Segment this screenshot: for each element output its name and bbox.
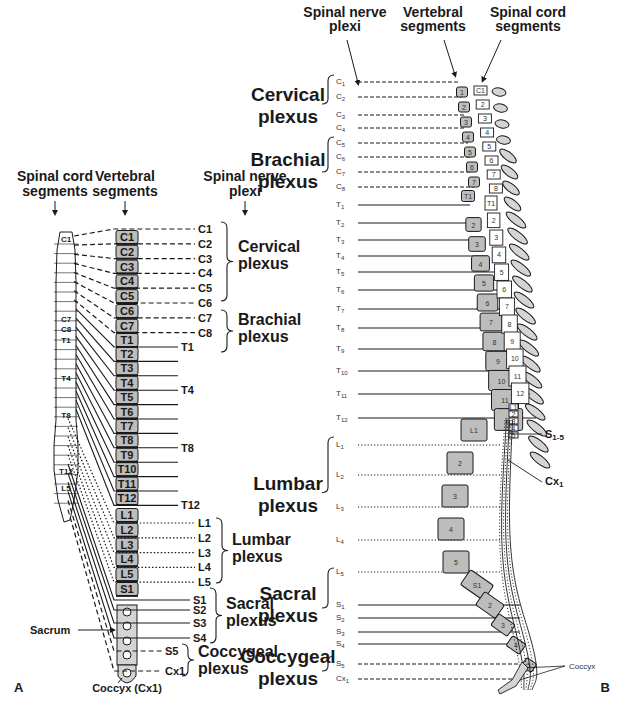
nerve-label-b: L4 [336,535,344,545]
vertebra-label: C3 [120,261,134,273]
nerve-label-b: T11 [336,389,348,399]
nerve-label-b: T6 [336,285,345,295]
nerve-label: L1 [198,517,211,529]
vertebra-label: T7 [121,420,134,432]
vertebral-body-label: 11 [501,397,508,404]
cord-segment-label: T8 [61,411,71,420]
vertebra-label: T2 [121,348,134,360]
vertebral-body-label: 3 [475,241,479,248]
cord-segment-label-b: 7 [492,171,496,178]
vertebral-body-label: 3 [453,493,457,500]
nerve-label-b: T7 [336,304,345,314]
cord-segment-label-b: 4 [485,129,489,136]
header-vertebral-segments: Vertebralsegments [92,168,158,199]
vertebra-label: C6 [120,305,134,317]
nerve-label-b: C4 [336,123,346,133]
vertebral-body-label: 6 [470,164,474,171]
nerve-label-b: C2 [336,92,346,102]
spinous-process [510,273,534,294]
cord-segment-label-b: 2 [481,101,485,108]
nerve-label: T12 [181,499,200,511]
vertebra-label: C2 [120,246,134,258]
nerve-label: C6 [198,297,212,309]
nerve-label-b: S3 [336,627,345,637]
spinous-process [498,147,519,166]
plexus-label-b-cervical: Cervicalplexus [251,84,325,127]
cord-segment-label: C7 [61,315,72,324]
nerve-label-b: L5 [336,567,344,577]
spinous-process [509,257,533,278]
cord-segment-label-b: 2 [512,411,516,418]
vertebra-label: C5 [120,290,134,302]
coccyx-label-b: Coccyx [569,662,595,671]
vertebral-body-label: 9 [496,358,500,365]
spinal-nerve-diagram: Spinal cordsegmentsVertebralsegmentsSpin… [0,0,621,703]
vertebral-body-label: L1 [470,427,478,434]
coccyx-label: Coccyx (Cx1) [92,682,162,694]
spinous-process [502,195,523,214]
header-vertebral-segments-b: Vertebralsegments [400,4,466,34]
brace-brachial [221,310,233,352]
vertebra-label: L4 [121,553,135,565]
vertebral-body-label: 1 [460,89,464,96]
plexus-label-cervical: Cervicalplexus [238,238,300,272]
vertebra-label: T3 [121,362,134,374]
nerve-label-b: T1 [336,200,345,210]
cx1-label: Cx1 [545,475,564,489]
brace-lumbar [216,518,228,583]
vertebral-body-label: 2 [488,602,492,609]
nerve-label-b: T12 [336,413,348,423]
vertebra-label: C1 [120,231,134,243]
cord-segment-label: T4 [61,374,71,383]
cord-segment-label-b: 10 [511,355,519,362]
nerve-label: C2 [198,238,212,250]
vertebral-body-label: 6 [486,300,490,307]
vertebral-body-label: 10 [498,378,506,385]
nerve-label: C1 [198,223,212,235]
coccyx-foramen [123,669,131,677]
vertebral-body-label: 7 [489,319,493,326]
nerve-label-b: C3 [336,110,346,120]
vertebra-label: T9 [121,449,134,461]
vertebral-body-label: 2 [472,222,476,229]
vertebra-label: L3 [121,539,134,551]
nerve-label-b: L1 [336,440,344,450]
vertebra-label: T8 [121,434,134,446]
brace-b-sacral [322,568,334,608]
spinous-process [512,289,536,310]
cord-segment-label-b: 8 [494,185,498,192]
nerve-label: L4 [198,561,212,573]
nerve-label: Cx1 [165,665,185,677]
nerve-label-b: L2 [336,470,344,480]
nerve-label: L2 [198,532,211,544]
nerve-label-b: T4 [336,251,345,261]
header-spinal-cord-segments-b: Spinal cordsegments [490,4,566,34]
arrow-icon [347,40,358,83]
nerve-label: L3 [198,547,211,559]
arrow-icon [444,40,455,75]
vertebra-label: L5 [121,568,134,580]
vertebra-label: T10 [118,463,137,475]
sacral-foramen [123,651,131,659]
nerve-label: L5 [198,576,211,588]
cord-segment-label-b: 6 [502,286,506,293]
nerve-label-b: S2 [336,613,345,623]
spinous-process [496,135,511,145]
nerve-label-b: C8 [336,182,346,192]
cord-segment-label-b: 12 [516,390,524,397]
nerve-label: S5 [165,645,178,657]
nerve-label-b: Cx1 [336,674,350,684]
nerve-label: T8 [181,442,194,454]
nerve-cx1 [68,510,162,671]
vertebral-body-label: 3 [501,622,505,629]
cord-segment-label-b: 3 [494,234,498,241]
vertebral-body-label: 3 [464,119,468,126]
vertebral-body-label: 4 [479,261,483,268]
vertebral-body-label: 2 [462,104,466,111]
spinous-process [494,119,509,129]
plexus-label-b-sacral: Sacralplexus [258,583,318,626]
vertebral-body-label: 7 [472,179,476,186]
cord-segment-label-b: 4 [497,251,501,258]
plexus-label-lumbar: Lumbarplexus [232,531,291,565]
plexus-label-b-coccygeal: Coccygealplexus [240,646,335,689]
